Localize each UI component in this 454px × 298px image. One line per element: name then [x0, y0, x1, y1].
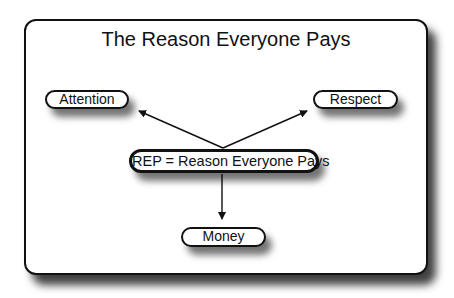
node-respect: Respect	[313, 90, 398, 109]
node-money: Money	[181, 227, 266, 247]
node-center-rep: REP = Reason Everyone Pays	[129, 149, 319, 173]
node-attention: Attention	[45, 90, 129, 109]
arrow-to-respect	[223, 111, 307, 148]
arrow-to-attention	[139, 111, 223, 148]
